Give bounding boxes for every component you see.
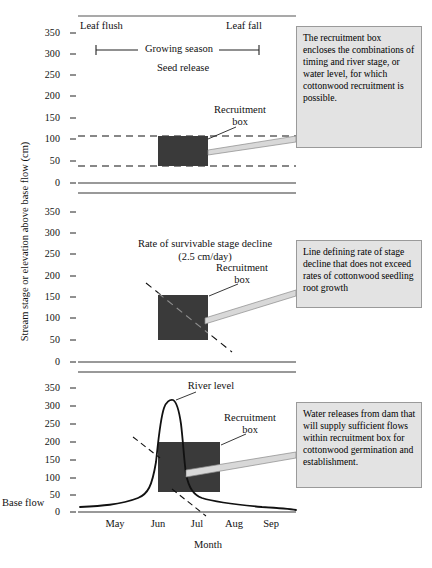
y-tick-label: 100: [14, 472, 60, 483]
y-tick-label: 300: [14, 48, 60, 59]
y-tick-label: 50: [14, 334, 60, 345]
y-tick-label: 350: [14, 27, 60, 38]
y-tick-label: 50: [14, 489, 60, 500]
y-tick-label: 100: [14, 312, 60, 323]
y-tick-label: 350: [14, 382, 60, 393]
panel-middle-recruitment-box-label: Recruitment box: [208, 262, 276, 286]
y-tick-label: 150: [14, 454, 60, 465]
panel-middle-recruitment-box-pointer: [209, 284, 238, 296]
panel-bottom-recruitment-box-label: Recruitment box: [216, 412, 284, 436]
decline-rate-value: (2.5 cm/day): [110, 251, 300, 263]
panel-middle-tickmarks: [70, 212, 76, 362]
x-tick-label-jul: Jul: [177, 518, 217, 529]
panel-top-leader: [208, 136, 296, 155]
panel-top-recruitment-box: [158, 136, 208, 166]
y-tick-label: 50: [14, 155, 60, 166]
panel-bottom-tickmarks: [70, 388, 76, 512]
y-tick-label: 150: [14, 112, 60, 123]
river-level-pointer: [176, 392, 196, 400]
panel-middle-recruitment-box: [158, 295, 208, 340]
y-tick-label: 250: [14, 418, 60, 429]
callout-recruitment-box-definition: The recruitment box encloses the combina…: [296, 26, 422, 148]
x-tick-label-sep: Sep: [251, 518, 291, 529]
leaf-fall-label: Leaf fall: [220, 20, 268, 32]
y-tick-label: 0: [14, 506, 60, 517]
y-tick-label: 350: [14, 206, 60, 217]
panel-top-recruitment-box-label: Recruitment box: [206, 104, 274, 128]
leaf-flush-label: Leaf flush: [80, 20, 124, 32]
y-tick-label: 200: [14, 270, 60, 281]
river-level-label: River level: [186, 380, 236, 392]
seed-release-label: Seed release: [148, 62, 218, 74]
callout-water-releases: Water releases from dam that will supply…: [296, 402, 422, 488]
growing-season-label: Growing season: [136, 43, 222, 55]
panel-top-tickmarks: [70, 33, 76, 183]
y-tick-label: 300: [14, 227, 60, 238]
panel-top-recruitment-box-pointer: [208, 127, 236, 139]
y-tick-label: 250: [14, 248, 60, 259]
y-tick-label: 250: [14, 69, 60, 80]
y-tick-label: 300: [14, 400, 60, 411]
figure-root: Stream stage or elevation above base flo…: [0, 0, 432, 568]
panel-middle-leader: [205, 290, 296, 324]
callout-stage-decline: Line defining rate of stage decline that…: [296, 240, 422, 308]
x-tick-label-may: May: [95, 518, 135, 529]
y-tick-label: 200: [14, 90, 60, 101]
y-tick-label: 200: [14, 436, 60, 447]
y-tick-label: 0: [14, 356, 60, 367]
y-tick-label: 100: [14, 133, 60, 144]
panel-bottom-recruitment-box-pointer: [221, 434, 246, 445]
decline-rate-label: Rate of survivable stage decline: [110, 238, 300, 250]
x-axis-label: Month: [148, 539, 268, 550]
x-tick-label-jun: Jun: [138, 518, 178, 529]
y-tick-label: 150: [14, 291, 60, 302]
x-tick-label-aug: Aug: [214, 518, 254, 529]
y-tick-label: 0: [14, 177, 60, 188]
